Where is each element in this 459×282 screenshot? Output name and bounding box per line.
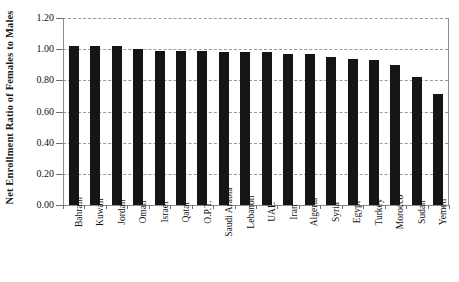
y-axis-tick-label: 0.00 xyxy=(37,199,55,210)
x-axis-label: Turkey xyxy=(363,210,384,280)
x-axis-label-text: Iran xyxy=(288,204,298,219)
x-axis-label-text: Kuwait xyxy=(95,198,105,226)
bar xyxy=(369,60,379,205)
bar xyxy=(390,65,400,205)
x-axis-label-text: Turkey xyxy=(374,198,384,225)
x-axis-label: Syria xyxy=(320,210,341,280)
x-axis-label: Qatar xyxy=(170,210,191,280)
x-axis-tick-mark xyxy=(170,205,171,209)
x-axis-tick-mark xyxy=(192,205,193,209)
x-axis-tick-mark xyxy=(363,205,364,209)
y-axis-tick-mark xyxy=(56,143,63,144)
bars-layer xyxy=(63,18,449,205)
x-axis-label: Egypt xyxy=(342,210,363,280)
x-axis-tick-mark xyxy=(149,205,150,209)
x-axis-label-text: Morocco xyxy=(395,195,405,229)
x-axis-label-text: Sudan xyxy=(417,200,427,224)
bar xyxy=(348,59,358,205)
x-axis-labels: BahrainKuwaitJordanOmanIsraelQatarO.P.T.… xyxy=(63,210,449,282)
x-axis-tick-mark xyxy=(63,205,64,209)
x-axis-label: Morocco xyxy=(385,210,406,280)
y-axis-tick-mark xyxy=(56,205,63,206)
x-axis-label: UAE xyxy=(256,210,277,280)
x-axis-tick-mark xyxy=(277,205,278,209)
bar xyxy=(240,52,250,205)
bar xyxy=(197,51,207,205)
bar xyxy=(262,52,272,205)
x-axis-tick-mark xyxy=(256,205,257,209)
y-axis-tick-mark xyxy=(56,18,63,19)
x-axis-tick-mark xyxy=(320,205,321,209)
y-axis-ticks: 1.201.000.800.600.400.200.00 xyxy=(0,0,63,282)
x-axis-label: Kuwait xyxy=(84,210,105,280)
bar-chart: Net Enrollment Ratio of Females to Males… xyxy=(0,0,459,282)
bar xyxy=(412,77,422,205)
x-axis-label: Sudan xyxy=(406,210,427,280)
x-axis-label: O.P.T. xyxy=(192,210,213,280)
y-axis-tick-label: 0.20 xyxy=(37,168,55,179)
x-axis-tick-mark xyxy=(127,205,128,209)
x-axis-label-text: UAE xyxy=(267,202,277,222)
x-axis-tick-mark xyxy=(299,205,300,209)
x-axis-label-text: Egypt xyxy=(352,201,362,224)
bar xyxy=(112,46,122,205)
y-axis-tick-label: 0.40 xyxy=(37,137,55,148)
x-axis-label-text: Bahrain xyxy=(74,197,84,227)
x-axis-label: Iran xyxy=(277,210,298,280)
x-axis-label-text: Qatar xyxy=(181,201,191,222)
x-axis-label-text: Saudi Arabia xyxy=(224,187,234,236)
x-axis-tick-mark xyxy=(213,205,214,209)
bar xyxy=(283,54,293,205)
x-axis-label-text: Yemen xyxy=(438,199,448,225)
x-axis-tick-mark xyxy=(428,205,429,209)
x-axis-label: Yemen xyxy=(428,210,449,280)
y-axis-tick-mark xyxy=(56,49,63,50)
x-axis-tick-mark xyxy=(106,205,107,209)
bar xyxy=(433,94,443,205)
y-axis-tick-label: 1.00 xyxy=(37,43,55,54)
y-axis-tick-mark xyxy=(56,174,63,175)
x-axis-tick-mark xyxy=(235,205,236,209)
x-axis-label-text: Jordan xyxy=(117,199,127,224)
x-axis-tick-mark xyxy=(449,205,450,209)
x-axis-tick-mark xyxy=(406,205,407,209)
x-axis-tick-mark xyxy=(84,205,85,209)
x-axis-label-text: Algeria xyxy=(310,198,320,227)
y-axis-tick-label: 0.80 xyxy=(37,74,55,85)
x-axis-label: Israel xyxy=(149,210,170,280)
x-axis-label-text: Israel xyxy=(159,201,169,222)
x-axis-label-text: O.P.T. xyxy=(202,200,212,223)
x-axis-label: Bahrain xyxy=(63,210,84,280)
bar xyxy=(69,46,79,205)
bar xyxy=(90,46,100,205)
bar xyxy=(176,51,186,205)
y-axis-tick-label: 0.60 xyxy=(37,106,55,117)
x-axis-label: Jordan xyxy=(106,210,127,280)
y-axis-tick-mark xyxy=(56,80,63,81)
y-axis-tick-label: 1.20 xyxy=(37,12,55,23)
x-axis-label: Saudi Arabia xyxy=(213,210,234,280)
bar xyxy=(155,51,165,205)
x-axis-tick-mark xyxy=(342,205,343,209)
y-axis-tick-mark xyxy=(56,112,63,113)
x-axis-label: Lebanon xyxy=(235,210,256,280)
x-axis-label-text: Lebanon xyxy=(245,195,255,228)
bar xyxy=(133,49,143,205)
bar xyxy=(326,57,336,205)
x-axis-label-text: Syria xyxy=(331,202,341,222)
x-axis-label: Oman xyxy=(127,210,148,280)
bar xyxy=(219,52,229,205)
bar xyxy=(305,54,315,205)
x-axis-label: Algeria xyxy=(299,210,320,280)
x-axis-tick-mark xyxy=(385,205,386,209)
x-axis-label-text: Oman xyxy=(138,200,148,223)
